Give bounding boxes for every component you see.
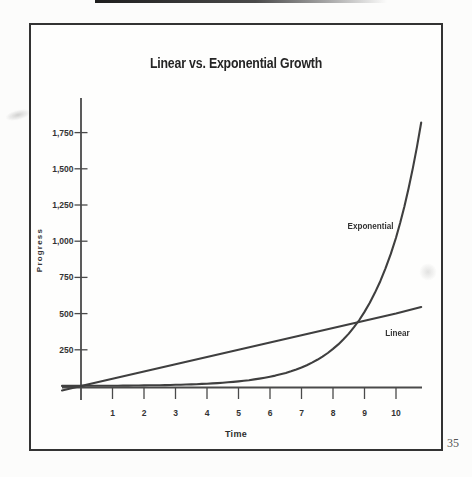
y-tick-label: 250 [59, 345, 73, 355]
chart-frame: Linear vs. Exponential Growth Progress 1… [29, 23, 443, 451]
y-tick-label: 1,750 [52, 128, 74, 138]
x-tick-label: 7 [299, 408, 304, 418]
series-label-exponential: Exponential [348, 221, 394, 231]
series-line-linear [62, 307, 421, 390]
x-tick-label: 10 [391, 408, 401, 418]
scan-smudge-left [4, 107, 32, 123]
y-tick-label: 500 [59, 309, 73, 319]
page-number: 35 [447, 436, 459, 451]
x-tick-label: 8 [331, 408, 336, 418]
x-axis-title: Time [31, 429, 441, 439]
x-tick-label: 9 [362, 408, 367, 418]
chart-canvas: 123456789102505007501,0001,2501,5001,750 [31, 25, 441, 449]
x-tick-label: 4 [205, 408, 210, 418]
y-tick-label: 1,500 [52, 164, 74, 174]
x-tick-label: 5 [236, 408, 241, 418]
y-tick-label: 1,000 [52, 236, 74, 246]
y-tick-label: 1,250 [52, 200, 74, 210]
x-tick-label: 2 [142, 408, 147, 418]
series-line-exponential [62, 123, 421, 386]
series-label-linear: Linear [385, 328, 409, 338]
scanned-page: Linear vs. Exponential Growth Progress 1… [0, 0, 472, 477]
x-tick-label: 1 [110, 408, 115, 418]
y-tick-label: 750 [59, 272, 73, 282]
x-tick-label: 3 [173, 408, 178, 418]
x-tick-label: 6 [268, 408, 273, 418]
scan-artifact-line [95, 0, 387, 3]
